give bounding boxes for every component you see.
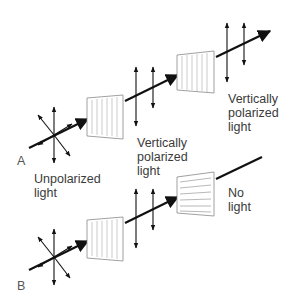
vertical-polarization-output-icon xyxy=(227,23,244,82)
incident-ray-b xyxy=(29,241,88,270)
blocked-ray-b xyxy=(216,157,262,179)
source-label-line2: light xyxy=(34,186,57,200)
exit-ray-a xyxy=(216,31,270,57)
filter-1-vertical xyxy=(87,95,123,139)
filter-2-horizontal xyxy=(177,172,214,216)
filter-2-vertical xyxy=(177,51,214,93)
polarization-diagram: A Unpolarized light Vertically polarized… xyxy=(0,0,297,297)
out-label-a-line3: light xyxy=(228,120,251,134)
incident-ray-a xyxy=(29,119,88,148)
out-label-a-line1: Vertically xyxy=(228,92,279,106)
mid-label-line3: light xyxy=(137,164,160,178)
panel-label-a: A xyxy=(17,154,26,168)
panel-label-b: B xyxy=(17,279,25,293)
vertical-polarization-icon-b xyxy=(136,189,153,248)
panel-a: A Unpolarized light Vertically polarized… xyxy=(17,23,279,200)
out-label-b-line1: No xyxy=(228,186,244,200)
mid-ray-b xyxy=(125,197,178,223)
source-label-line1: Unpolarized xyxy=(34,172,101,186)
mid-label-line2: polarized xyxy=(137,150,188,164)
mid-ray-a xyxy=(125,75,178,101)
mid-label-line1: Vertically xyxy=(137,136,188,150)
out-label-a-line2: polarized xyxy=(228,106,279,120)
vertical-polarization-icon xyxy=(136,67,153,126)
out-label-b-line2: light xyxy=(228,200,251,214)
filter-1-vertical-b xyxy=(87,217,123,261)
